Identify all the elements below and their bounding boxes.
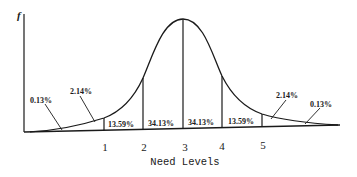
tick-label-3: 3 bbox=[182, 141, 188, 153]
tick-label-5: 5 bbox=[260, 139, 266, 151]
tick-label-4: 4 bbox=[219, 140, 225, 152]
region-label-left-center: 34.13% bbox=[148, 119, 174, 128]
leader-right-tail bbox=[305, 108, 320, 124]
region-label-right-inner: 13.59% bbox=[228, 117, 254, 126]
normal-distribution-diagram: f 0.13% 2.14% 13.59% 34.13% 34.13% 13.59… bbox=[0, 0, 357, 177]
leader-left-tail bbox=[45, 104, 62, 130]
tick-label-1: 1 bbox=[102, 141, 108, 153]
tick-label-2: 2 bbox=[141, 141, 147, 153]
x-axis-label: Need Levels bbox=[150, 156, 219, 168]
region-label-right: 2.14% bbox=[276, 91, 298, 100]
region-label-left-inner: 13.59% bbox=[108, 120, 134, 129]
y-axis-label: f bbox=[17, 9, 22, 21]
region-label-left: 2.14% bbox=[70, 87, 92, 96]
region-label-left-tail: 0.13% bbox=[30, 96, 52, 105]
bell-curve bbox=[30, 19, 338, 132]
leader-left bbox=[80, 96, 95, 122]
region-label-right-tail: 0.13% bbox=[310, 100, 332, 109]
leader-right bbox=[271, 100, 286, 119]
region-label-right-center: 34.13% bbox=[188, 118, 214, 127]
